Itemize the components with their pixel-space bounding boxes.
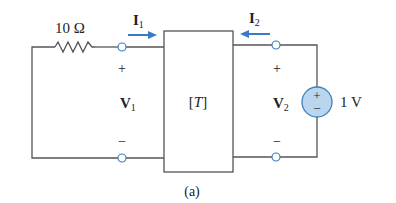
current-i2-label: I2 — [249, 10, 260, 28]
v1-minus-sign: − — [118, 134, 126, 149]
resistor-label: 10 Ω — [55, 20, 85, 36]
voltage-source-icon: + − — [302, 87, 332, 117]
left-loop-wire — [32, 47, 118, 158]
terminal-1-bottom — [118, 154, 126, 162]
v1-plus-sign: + — [118, 61, 126, 76]
v2-plus-sign: + — [273, 61, 281, 76]
source-minus: − — [313, 101, 320, 116]
terminal-2-top — [272, 41, 280, 49]
resistor-icon — [55, 42, 95, 52]
terminal2-top-wire-right — [280, 45, 317, 87]
voltage-v2-label: V2 — [273, 95, 289, 113]
current-arrow-i2 — [240, 30, 270, 38]
current-i1-label: I1 — [133, 12, 144, 30]
terminal-2-bottom — [272, 153, 280, 161]
current-arrow-i1 — [128, 31, 157, 39]
circuit-diagram: + − 10 Ω I1 I2 + + V1 [T] V2 1 V − − (a) — [0, 0, 396, 203]
terminal-1-top — [118, 43, 126, 51]
figure-caption: (a) — [184, 184, 200, 200]
network-label: [T] — [189, 94, 207, 110]
source-bottom-wire — [280, 117, 317, 157]
source-label: 1 V — [340, 94, 362, 110]
v2-minus-sign: − — [273, 134, 281, 149]
voltage-v1-label: V1 — [120, 95, 136, 113]
